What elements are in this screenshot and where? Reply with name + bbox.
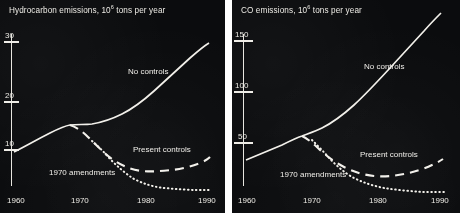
panel-divider (225, 0, 232, 213)
series-label-1970-amendments-right: 1970 amendments (280, 170, 346, 179)
plot-area-right (232, 0, 460, 213)
series-label-present-controls-right: Present controls (360, 150, 418, 159)
series-label-1970-amendments-left: 1970 amendments (49, 168, 115, 177)
figure-two-panel-emissions: Hydrocarbon emissions, 106 tons per year… (0, 0, 460, 213)
chart-panel-hydrocarbon: Hydrocarbon emissions, 106 tons per year… (0, 0, 225, 213)
plot-area-left (0, 0, 225, 213)
series-line-no-controls-right (246, 13, 441, 160)
series-line-no-controls-left (14, 43, 209, 152)
series-label-present-controls-left: Present controls (133, 145, 191, 154)
series-line-1970-amendments-right (312, 140, 445, 192)
series-label-no-controls-left: No controls (128, 67, 168, 76)
chart-panel-co: CO emissions, 106 tons per year 150 100 … (232, 0, 460, 213)
series-label-no-controls-right: No controls (364, 62, 404, 71)
